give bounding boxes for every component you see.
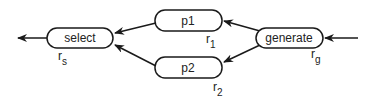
rate-label-p2: r2 (213, 80, 223, 98)
node-select-label: select (64, 31, 96, 45)
node-p1: p1 (155, 10, 222, 31)
node-generate: generate (256, 28, 323, 48)
node-generate-label: generate (265, 31, 313, 45)
pipeline-diagram: select p1 p2 generate rs r1 r2 rg (0, 0, 378, 107)
node-p1-label: p1 (181, 14, 195, 28)
edge-generate-p2 (224, 45, 260, 62)
edge-generate-p1 (224, 21, 260, 31)
rate-label-generate: rg (311, 47, 321, 65)
node-select: select (47, 28, 113, 48)
edge-p1-select (115, 23, 156, 33)
rate-label-select: rs (58, 49, 67, 67)
rate-label-p1: r1 (206, 32, 216, 50)
node-p2: p2 (155, 57, 222, 78)
edge-p2-select (115, 45, 156, 66)
node-p2-label: p2 (181, 61, 195, 75)
